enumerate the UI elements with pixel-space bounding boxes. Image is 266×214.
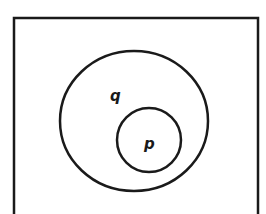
set-q-circle (60, 51, 208, 191)
set-p-label: p (143, 135, 155, 153)
universe-rectangle (14, 18, 258, 214)
venn-diagram: q p (0, 0, 266, 214)
set-q-label: q (110, 87, 121, 105)
